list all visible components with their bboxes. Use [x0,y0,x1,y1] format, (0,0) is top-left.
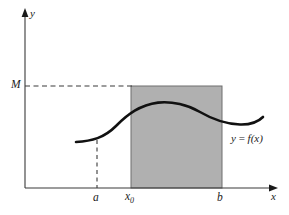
curve-label-equals: = [236,132,248,144]
tick-label-x0: x0 [125,191,134,203]
y-axis-arrowhead [22,8,29,17]
shaded-rectangle [131,86,222,188]
curve-label-arg: (x) [251,132,263,144]
figure-canvas [0,0,289,215]
tick-label-a: a [93,192,99,204]
tick-label-b: b [217,192,223,204]
y-axis-label: y [30,8,35,19]
tick-label-x0-subscript: 0 [130,196,134,205]
x-axis-label: x [271,191,276,202]
level-label-M: M [11,79,21,91]
figure-root: y x M a x0 b y = f(x) [0,0,289,215]
curve-label: y = f(x) [231,133,263,144]
